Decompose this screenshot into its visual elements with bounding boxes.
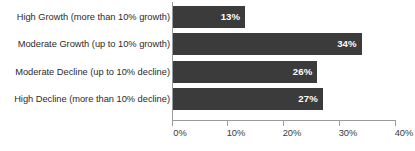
category-axis-labels: High Growth (more than 10% growth) Moder… [0, 0, 170, 120]
x-tick-20 [283, 121, 284, 126]
x-tick-30 [339, 121, 340, 126]
bar-high-decline[interactable]: 27% [173, 88, 323, 110]
x-tick-label-40: 40% [395, 128, 414, 139]
bar-row-high-decline[interactable]: 27% [173, 88, 323, 110]
category-label-moderate-growth: Moderate Growth (up to 10% growth) [0, 39, 170, 49]
bar-moderate-growth[interactable]: 34% [173, 33, 362, 55]
x-tick-10 [227, 121, 228, 126]
x-tick-label-0: 0% [173, 128, 186, 139]
bar-chart: High Growth (more than 10% growth) Moder… [0, 0, 415, 151]
bar-row-moderate-growth[interactable]: 34% [173, 33, 362, 55]
x-tick-0 [172, 121, 173, 126]
bar-high-growth[interactable]: 13% [173, 6, 245, 28]
category-label-high-growth: High Growth (more than 10% growth) [0, 12, 170, 22]
x-tick-label-30: 30% [339, 128, 358, 139]
y-axis-line [172, 2, 173, 121]
bar-row-moderate-decline[interactable]: 26% [173, 61, 317, 83]
x-tick-label-10: 10% [227, 128, 246, 139]
plot-area: 13% 34% 26% 27% [173, 0, 395, 120]
bar-value-moderate-growth: 34% [337, 39, 357, 49]
category-label-high-decline: High Decline (more than 10% decline) [0, 94, 170, 104]
bar-value-high-decline: 27% [298, 94, 318, 104]
bar-value-moderate-decline: 26% [293, 67, 313, 77]
bar-value-high-growth: 13% [221, 12, 241, 22]
bar-moderate-decline[interactable]: 26% [173, 61, 317, 83]
x-tick-40 [395, 121, 396, 126]
bar-row-high-growth[interactable]: 13% [173, 6, 245, 28]
x-axis-line [172, 120, 396, 121]
x-tick-label-20: 20% [283, 128, 302, 139]
category-label-moderate-decline: Moderate Decline (up to 10% decline) [0, 67, 170, 77]
